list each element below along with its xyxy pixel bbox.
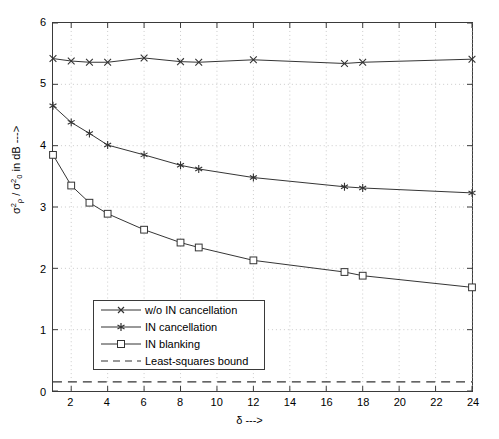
y-axis-label-text: σ2ρ / σ20 in dB --->: [10, 126, 22, 214]
x-tick-22: 22: [421, 397, 451, 408]
x-tick-16: 16: [312, 397, 342, 408]
x-tick-24: 24: [458, 397, 488, 408]
y-axis-label: σ2ρ / σ20 in dB --->: [9, 55, 29, 285]
x-tick-6: 6: [129, 397, 159, 408]
series-0: [50, 55, 476, 67]
legend-label-2: IN blanking: [145, 338, 200, 350]
x-tick-12: 12: [238, 397, 268, 408]
x-tick-18: 18: [348, 397, 378, 408]
x-tick-14: 14: [275, 397, 305, 408]
x-tick-20: 20: [385, 397, 415, 408]
x-tick-2: 2: [55, 397, 85, 408]
legend-label-1: IN cancellation: [145, 321, 217, 333]
x-axis-tick-labels: 24681012141618202224: [0, 397, 499, 413]
x-marker-icon: [99, 303, 143, 317]
x-tick-4: 4: [92, 397, 122, 408]
series-1: [50, 102, 476, 197]
legend-label-0: w/o IN cancellation: [145, 304, 237, 316]
legend-item-in-cancellation: IN cancellation: [94, 318, 264, 335]
x-axis-label: δ --->: [0, 414, 499, 426]
legend-item-wo-in-cancellation: w/o IN cancellation: [94, 301, 264, 318]
chart-figure: 6 5 4 3 2 1 0 σ2ρ / σ20 in dB ---> 24681…: [0, 0, 499, 439]
chart-legend: w/o IN cancellation IN cancellation IN b…: [93, 300, 265, 370]
star-marker-icon: [99, 320, 143, 334]
legend-label-3: Least-squares bound: [145, 355, 248, 367]
legend-item-least-squares-bound: Least-squares bound: [94, 352, 264, 369]
dashed-line-icon: [99, 354, 143, 368]
legend-item-in-blanking: IN blanking: [94, 335, 264, 352]
x-tick-10: 10: [202, 397, 232, 408]
series-2: [50, 151, 476, 290]
x-tick-8: 8: [165, 397, 195, 408]
x-axis-label-arrow: --->: [245, 414, 262, 426]
y-tick-1: 1: [6, 325, 46, 336]
y-tick-6: 6: [6, 17, 46, 28]
square-marker-icon: [99, 337, 143, 351]
